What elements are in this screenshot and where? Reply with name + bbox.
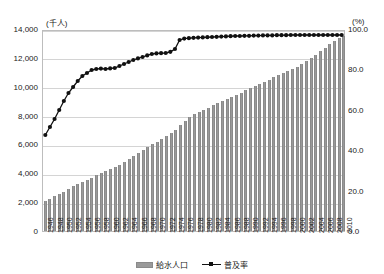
line-marker [182,37,186,41]
line-marker [57,108,61,112]
x-axis-tick-1946: 1946 [47,217,54,233]
left-axis-tick-2000: 2,000 [0,199,38,207]
x-axis-tick-1978: 1978 [197,217,204,233]
line-marker [127,60,131,64]
x-axis-tick-1994: 1994 [271,217,278,233]
line-series-普及率 [43,31,344,231]
line-marker [252,34,256,38]
line-marker [233,34,237,38]
x-axis-tick-1964: 1964 [131,217,138,233]
x-axis-tick-1960: 1960 [113,217,120,233]
line-marker [150,52,154,56]
x-axis-tick-1972: 1972 [169,217,176,233]
line-marker [43,133,47,137]
line-marker [99,67,103,71]
x-axis-tick-1990: 1990 [252,217,259,233]
line-marker [62,99,66,103]
line-marker [66,91,70,95]
line-marker [164,51,168,55]
line-marker [224,34,228,38]
x-axis-tick-2008: 2008 [336,217,343,233]
line-marker [117,64,121,68]
line-marker [293,33,297,37]
x-axis-tick-1980: 1980 [206,217,213,233]
line-marker [242,34,246,38]
left-axis-tick-14000: 14,000 [0,26,38,34]
line-marker [219,35,223,39]
left-axis-tick-0: 0 [0,228,38,236]
legend-item-diffusion-rate[interactable]: 普及率 [202,259,248,270]
line-marker [279,33,283,37]
line-marker [303,33,307,37]
legend-item-water-supply-population[interactable]: 給水人口 [136,259,188,270]
line-marker [256,34,260,38]
line-marker [298,33,302,37]
line-marker [187,36,191,40]
line-marker [136,56,140,60]
left-axis-tick-4000: 4,000 [0,170,38,178]
line-marker [159,51,163,55]
x-axis-tick-1954: 1954 [85,217,92,233]
x-axis-tick-1976: 1976 [187,217,194,233]
x-axis-tick-1952: 1952 [75,217,82,233]
line-marker [340,33,344,37]
x-axis-tick-1996: 1996 [280,217,287,233]
line-marker [335,33,339,37]
x-axis-tick-2002: 2002 [308,217,315,233]
line-marker [210,35,214,39]
line-marker [316,33,320,37]
x-axis-tick-1968: 1968 [150,217,157,233]
x-axis-tick-1958: 1958 [103,217,110,233]
right-axis-tick-100: 100.0 [348,26,382,34]
x-axis-tick-1988: 1988 [243,217,250,233]
right-axis-tick-60: 60.0 [348,107,382,115]
plot-area [42,30,345,232]
line-marker [103,67,107,71]
line-marker [215,35,219,39]
right-axis-tick-0: 0.0 [348,228,382,236]
line-marker [289,33,293,37]
line-marker [154,51,158,55]
line-marker [270,33,274,37]
x-axis-tick-1966: 1966 [141,217,148,233]
line-marker [71,85,75,89]
x-axis-tick-1986: 1986 [234,217,241,233]
line-marker [247,34,251,38]
x-axis-tick-2004: 2004 [318,217,325,233]
right-axis-tick-40: 40.0 [348,147,382,155]
x-axis-tick-1962: 1962 [122,217,129,233]
line-marker [90,68,94,72]
line-marker [122,62,126,66]
line-marker [80,74,84,78]
line-marker [168,50,172,54]
left-axis-unit-caption: (千人) [46,17,67,28]
line-marker [52,117,56,121]
bar-swatch-icon [136,262,153,268]
x-axis-tick-1992: 1992 [262,217,269,233]
chart-legend: 給水人口 普及率 [0,257,384,272]
x-axis-tick-1970: 1970 [159,217,166,233]
x-axis-tick-1974: 1974 [178,217,185,233]
line-marker [228,34,232,38]
line-marker [307,33,311,37]
left-axis-tick-6000: 6,000 [0,141,38,149]
line-marker [284,33,288,37]
line-marker [48,125,52,129]
left-axis-tick-8000: 8,000 [0,113,38,121]
x-axis-tick-1948: 1948 [57,217,64,233]
line-marker [131,58,135,62]
x-axis-tick-1956: 1956 [94,217,101,233]
line-marker [196,36,200,40]
legend-label-diffusion-rate: 普及率 [224,259,248,270]
line-marker [76,79,80,83]
left-axis-tick-12000: 12,000 [0,55,38,63]
line-marker [275,33,279,37]
line-marker [191,36,195,40]
right-axis-tick-20: 20.0 [348,188,382,196]
x-axis-tick-1998: 1998 [290,217,297,233]
line-marker [201,35,205,39]
line-marker [326,33,330,37]
line-marker [266,33,270,37]
chart-container: (千人) (%) 02,0004,0006,0008,00010,00012,0… [0,0,384,274]
line-marker-swatch-icon [202,261,221,268]
